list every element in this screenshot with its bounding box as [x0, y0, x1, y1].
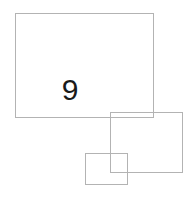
- count-label: 9: [54, 74, 86, 106]
- small-rectangle[interactable]: [85, 153, 128, 185]
- shape-canvas: 9: [0, 0, 194, 199]
